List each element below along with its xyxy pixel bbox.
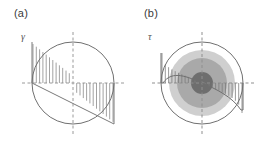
- panel-a-diagram: [0, 0, 130, 144]
- figure-root: (a) γ: [0, 0, 260, 144]
- panel-b-diagram: [130, 0, 260, 144]
- hatch-group-right-a: [77, 83, 113, 122]
- hatch-group-left-a: [33, 44, 69, 83]
- panel-a: (a) γ: [0, 0, 130, 144]
- panel-b: (b) τ: [130, 0, 260, 144]
